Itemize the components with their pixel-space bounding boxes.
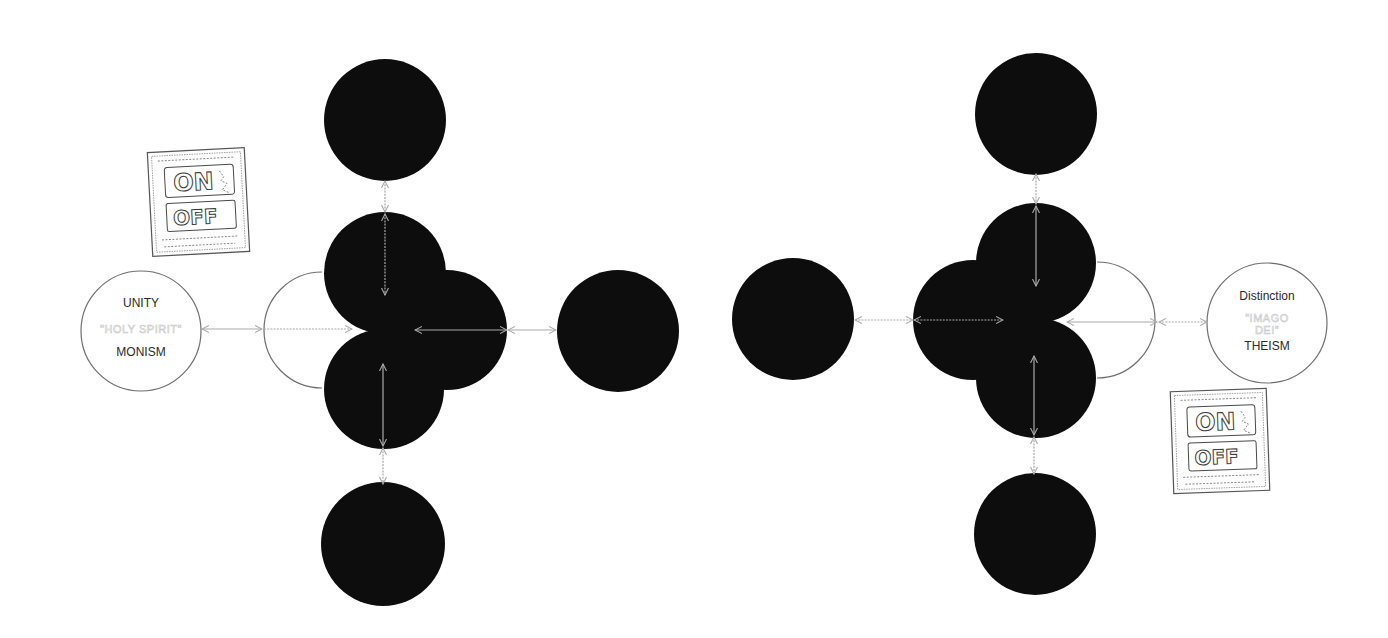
right-on-off-sign: ONOFF: [1170, 388, 1270, 493]
left-semicircle-arc: [264, 272, 322, 388]
center-left-circle[interactable]: [557, 270, 679, 392]
left-bottom-satellite[interactable]: [321, 482, 445, 606]
right-bottom-satellite[interactable]: [974, 473, 1096, 595]
left-top-satellite[interactable]: [324, 59, 446, 181]
diagram-canvas: UNITY"HOLY SPIRIT"MONISMDistinction"IMAG…: [0, 0, 1388, 638]
on-off-signs: ONOFFONOFF: [147, 148, 1269, 494]
center-right-circle[interactable]: [732, 258, 854, 380]
right-semicircle-arc: [1097, 262, 1155, 378]
unity-monism-node-label-2: MONISM: [116, 345, 165, 359]
unity-monism-node[interactable]: UNITY"HOLY SPIRIT"MONISM: [81, 271, 201, 391]
distinction-theism-node[interactable]: Distinction"IMAGODEI"THEISM: [1207, 263, 1327, 383]
distinction-theism-node-label-2: DEI": [1255, 324, 1279, 336]
unity-monism-node-label-0: UNITY: [123, 296, 159, 310]
distinction-theism-node-label-3: THEISM: [1244, 339, 1289, 353]
on-label: ON: [173, 167, 215, 197]
right-cluster-bottom-lobe[interactable]: [976, 318, 1096, 438]
distinction-theism-node-label-0: Distinction: [1239, 289, 1294, 303]
left-on-off-sign: ONOFF: [147, 148, 249, 257]
off-label: OFF: [173, 204, 219, 230]
label-nodes: UNITY"HOLY SPIRIT"MONISMDistinction"IMAG…: [81, 263, 1327, 391]
on-label: ON: [1195, 407, 1236, 436]
off-label: OFF: [1194, 444, 1239, 470]
lobe-clusters: [324, 203, 1096, 449]
distinction-theism-node-label-1: "IMAGO: [1245, 312, 1289, 324]
unity-monism-node-label-1: "HOLY SPIRIT": [100, 323, 182, 335]
left-cluster-bottom-lobe[interactable]: [324, 329, 444, 449]
right-top-satellite[interactable]: [975, 53, 1097, 175]
